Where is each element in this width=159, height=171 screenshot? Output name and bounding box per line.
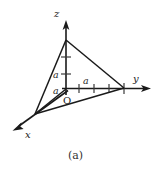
axes-group — [13, 20, 152, 131]
y-axis-label: y — [132, 73, 139, 84]
z-axis-label: z — [53, 8, 60, 19]
figure-container: z y x O a a a (a) — [0, 0, 159, 171]
dimension-label-z-upper: a — [53, 69, 59, 80]
coordinate-axes-diagram: z y x O a a a (a) — [0, 0, 159, 171]
dimension-label-y-first: a — [83, 75, 89, 86]
triangle-edge-z-to-y — [66, 40, 124, 88]
figure-caption: (a) — [68, 149, 83, 162]
dimension-label-z-lower: a — [53, 85, 59, 96]
x-axis-label: x — [25, 129, 31, 140]
intercept-triangle — [35, 40, 124, 114]
origin-label: O — [63, 95, 71, 106]
x-axis-line — [19, 91, 68, 127]
